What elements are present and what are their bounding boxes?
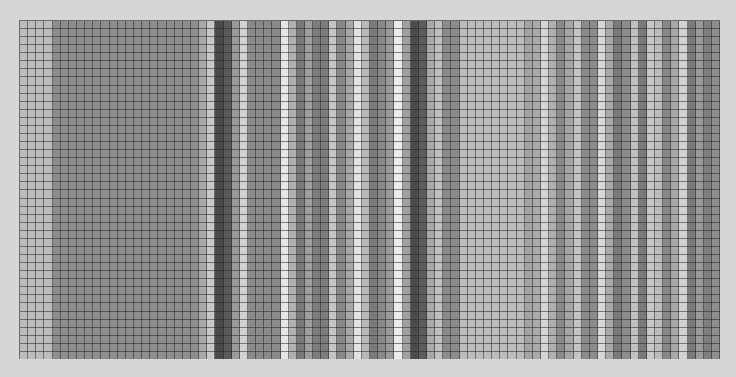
- grid-column: [403, 21, 411, 359]
- grid-column: [93, 21, 101, 359]
- grid-column: [443, 21, 451, 359]
- grid-column: [313, 21, 321, 359]
- grid-column: [264, 21, 272, 359]
- grid-column: [614, 21, 622, 359]
- grid-column: [69, 21, 77, 359]
- grid-column: [346, 21, 354, 359]
- grid-column: [321, 21, 329, 359]
- grid-column: [256, 21, 264, 359]
- grid-column: [362, 21, 370, 359]
- grid-column: [329, 21, 337, 359]
- grid-column: [248, 21, 256, 359]
- grid-column: [240, 21, 248, 359]
- grid-column: [435, 21, 443, 359]
- grid-column: [224, 21, 232, 359]
- grid-column: [191, 21, 199, 359]
- grid-column: [557, 21, 565, 359]
- grid-column: [517, 21, 525, 359]
- grid-column: [183, 21, 191, 359]
- grid-column: [175, 21, 183, 359]
- grid-column: [378, 21, 386, 359]
- grid-column: [549, 21, 557, 359]
- grid-column: [622, 21, 630, 359]
- grid-column: [110, 21, 118, 359]
- grid-column: [484, 21, 492, 359]
- grid-column: [712, 21, 720, 359]
- grid-column: [61, 21, 69, 359]
- grid-column: [36, 21, 44, 359]
- grid-column: [20, 21, 28, 359]
- grid-column: [704, 21, 712, 359]
- grid-column: [354, 21, 362, 359]
- grid-column: [476, 21, 484, 359]
- grid-column: [386, 21, 394, 359]
- grid-column: [598, 21, 606, 359]
- grid-column: [28, 21, 36, 359]
- grid-column: [574, 21, 582, 359]
- grid-column: [370, 21, 378, 359]
- grid-column: [142, 21, 150, 359]
- grid-column: [533, 21, 541, 359]
- grid-column: [671, 21, 679, 359]
- grid-column: [85, 21, 93, 359]
- grid-column: [468, 21, 476, 359]
- striped-grid: [19, 20, 720, 359]
- grid-column: [215, 21, 223, 359]
- grid-column: [500, 21, 508, 359]
- grid-column: [451, 21, 459, 359]
- grid-column: [419, 21, 427, 359]
- grid-column: [158, 21, 166, 359]
- grid-column: [565, 21, 573, 359]
- grid-column: [337, 21, 345, 359]
- grid-column: [305, 21, 313, 359]
- grid-column: [126, 21, 134, 359]
- grid-column: [134, 21, 142, 359]
- grid-column: [199, 21, 207, 359]
- grid-column: [492, 21, 500, 359]
- grid-column: [150, 21, 158, 359]
- grid-column: [281, 21, 289, 359]
- grid-column: [696, 21, 704, 359]
- grid-column: [297, 21, 305, 359]
- grid-column: [272, 21, 280, 359]
- grid-column: [582, 21, 590, 359]
- grid-column: [394, 21, 402, 359]
- grid-column: [655, 21, 663, 359]
- grid-column: [289, 21, 297, 359]
- grid-column: [631, 21, 639, 359]
- grid-column: [590, 21, 598, 359]
- grid-column: [427, 21, 435, 359]
- grid-column: [44, 21, 52, 359]
- grid-column: [679, 21, 687, 359]
- grid-column: [53, 21, 61, 359]
- grid-column: [639, 21, 647, 359]
- grid-column: [101, 21, 109, 359]
- grid-column: [606, 21, 614, 359]
- grid-column: [207, 21, 215, 359]
- grid-column: [647, 21, 655, 359]
- grid-column: [118, 21, 126, 359]
- grid-column: [460, 21, 468, 359]
- grid-column: [688, 21, 696, 359]
- grid-column: [525, 21, 533, 359]
- grid-column: [232, 21, 240, 359]
- grid-column: [77, 21, 85, 359]
- grid-column: [411, 21, 419, 359]
- grid-column: [541, 21, 549, 359]
- grid-column: [167, 21, 175, 359]
- grid-column: [508, 21, 516, 359]
- grid-column: [663, 21, 671, 359]
